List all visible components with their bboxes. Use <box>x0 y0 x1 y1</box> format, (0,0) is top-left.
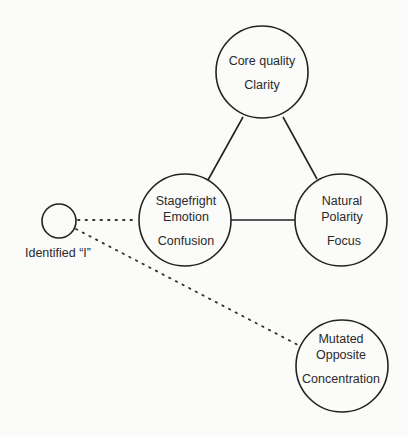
node-mutated-opposite: Mutated Opposite Concentration <box>296 320 388 412</box>
node-identified-label: Identified “I” <box>25 246 91 260</box>
node-stagefright-value: Confusion <box>158 234 214 248</box>
node-identified-i: Identified “I” <box>25 204 91 260</box>
node-stagefright-emotion: Stagefright Emotion Confusion <box>139 174 231 266</box>
node-stagefright-title1: Stagefright <box>156 194 217 208</box>
node-polarity-title1: Natural <box>322 194 362 208</box>
node-mutated-title1: Mutated <box>318 332 363 346</box>
diagram-canvas: Core quality Clarity Stagefright Emotion… <box>0 0 408 436</box>
node-mutated-title2: Opposite <box>316 348 366 362</box>
node-mutated-value: Concentration <box>302 372 380 386</box>
node-core-value: Clarity <box>244 78 280 92</box>
node-polarity-value: Focus <box>327 234 361 248</box>
edge-core-stagefright <box>208 117 243 180</box>
node-stagefright-title2: Emotion <box>163 210 209 224</box>
node-core-title: Core quality <box>229 54 296 68</box>
diagram-svg: Core quality Clarity Stagefright Emotion… <box>0 0 408 436</box>
edge-core-polarity <box>283 117 317 179</box>
node-core-quality: Core quality Clarity <box>216 26 308 118</box>
node-polarity-title2: Polarity <box>321 210 363 224</box>
node-natural-polarity: Natural Polarity Focus <box>295 174 387 266</box>
